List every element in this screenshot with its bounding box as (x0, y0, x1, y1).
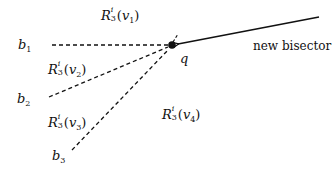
region-sup: i (172, 105, 175, 113)
bisector-label-b2: b2 (17, 92, 30, 108)
bisector-label-b1: b1 (18, 38, 31, 54)
point-q-dot (168, 41, 176, 49)
region-sup: i (58, 60, 61, 68)
region-arg-idx: 3 (76, 123, 81, 132)
new-bisector-label: new bisector (253, 40, 331, 52)
region-base: R (101, 8, 111, 23)
bisector-index: 3 (60, 156, 65, 165)
bisector-label-b3: b3 (52, 149, 65, 165)
region-arg-idx: 2 (76, 70, 81, 79)
dashed-stub-line (173, 34, 178, 42)
region-sup: i (58, 113, 61, 121)
region-label-v1: Ri3(v1) (101, 9, 139, 25)
region-base: R (48, 115, 58, 130)
region-sub: 3 (111, 15, 116, 23)
bisector-index: 1 (26, 45, 31, 54)
bisector-index: 2 (25, 99, 30, 108)
region-sub: 3 (58, 122, 63, 130)
point-q-label: q (180, 52, 188, 65)
region-label-v2: Ri3(v2) (48, 63, 86, 79)
region-base: R (162, 107, 172, 122)
region-sup: i (111, 6, 114, 14)
region-sub: 3 (172, 114, 177, 122)
region-base: R (48, 62, 58, 77)
region-sub: 3 (58, 69, 63, 77)
region-label-v3: Ri3(v3) (48, 116, 86, 132)
bisector-b3-line (72, 49, 169, 150)
region-label-v4: Ri3(v4) (162, 108, 200, 124)
region-arg-idx: 4 (190, 115, 195, 124)
diagram-canvas (0, 0, 336, 171)
region-arg-idx: 1 (129, 16, 134, 25)
